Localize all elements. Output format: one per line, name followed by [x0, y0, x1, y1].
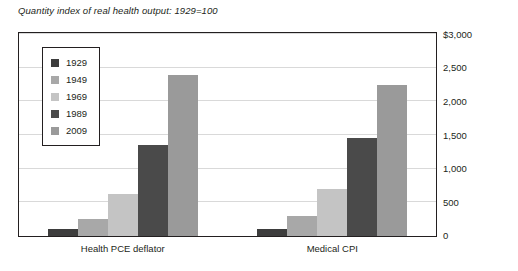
- legend-swatch: [51, 127, 59, 135]
- bar: [287, 216, 317, 236]
- chart-title: Quantity index of real health output: 19…: [18, 5, 218, 16]
- y-axis-tick-label: 1,000: [443, 163, 467, 174]
- legend-label: 1969: [66, 91, 87, 102]
- bar: [48, 229, 78, 236]
- x-axis: Health PCE deflatorMedical CPI: [18, 243, 437, 261]
- legend-label: 1989: [66, 108, 87, 119]
- legend-swatch: [51, 93, 59, 101]
- legend-item: 1929: [51, 54, 87, 71]
- y-axis: 05001,0001,5002,0002,500$3,000: [443, 32, 513, 237]
- bar-group: [228, 33, 437, 236]
- legend-swatch: [51, 110, 59, 118]
- bar: [78, 219, 108, 236]
- legend-swatch: [51, 76, 59, 84]
- y-axis-tick-label: 2,000: [443, 95, 467, 106]
- bar: [138, 145, 168, 236]
- legend-item: 1989: [51, 105, 87, 122]
- y-axis-tick-label: 1,500: [443, 129, 467, 140]
- legend-label: 1949: [66, 74, 87, 85]
- legend-item: 1969: [51, 88, 87, 105]
- legend-label: 2009: [66, 125, 87, 136]
- legend-swatch: [51, 59, 59, 67]
- bar: [347, 138, 377, 236]
- legend-item: 2009: [51, 122, 87, 139]
- chart-container: Quantity index of real health output: 19…: [0, 0, 518, 271]
- bar: [377, 85, 407, 236]
- y-axis-tick-label: $3,000: [443, 28, 472, 39]
- bar: [257, 229, 287, 236]
- y-axis-tick-label: 0: [443, 230, 448, 241]
- legend-label: 1929: [66, 57, 87, 68]
- x-axis-category-label: Medical CPI: [228, 243, 438, 261]
- y-axis-tick-label: 2,500: [443, 62, 467, 73]
- bar: [108, 194, 138, 236]
- y-axis-tick-label: 500: [443, 196, 459, 207]
- bar: [317, 189, 347, 236]
- bar: [168, 75, 198, 236]
- chart-legend: 19291949196919892009: [42, 47, 100, 146]
- x-axis-category-label: Health PCE deflator: [18, 243, 228, 261]
- legend-item: 1949: [51, 71, 87, 88]
